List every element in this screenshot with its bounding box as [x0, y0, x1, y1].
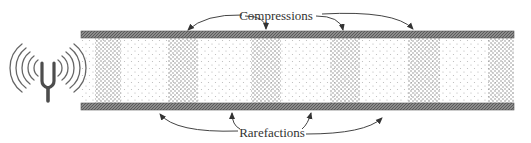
tube-interior	[81, 38, 514, 103]
diagram-canvas: Compressions Rarefactions	[0, 0, 531, 143]
compression-band-6	[488, 38, 514, 103]
compressions-label: Compressions	[239, 8, 313, 23]
rarefactions-label: Rarefactions	[239, 125, 305, 140]
compression-band-4	[330, 38, 360, 103]
rarefactions-annotation: Rarefactions	[160, 113, 382, 140]
tube-bottom-wall	[81, 103, 514, 110]
compression-band-2	[168, 38, 198, 103]
sound-wave-diagram: Compressions Rarefactions	[0, 0, 531, 143]
tuning-fork-icon	[10, 44, 86, 101]
rarefaction-fill	[81, 38, 514, 103]
compression-arrow-1	[188, 15, 242, 30]
compression-arrow-4	[322, 13, 413, 29]
tube-top-wall	[81, 31, 514, 38]
rarefaction-arrow-4	[306, 118, 382, 134]
compression-band-1	[95, 38, 121, 103]
compressions-annotation: Compressions	[188, 8, 413, 30]
compression-band-3	[251, 38, 281, 103]
left-sound-waves-icon	[10, 44, 38, 92]
compression-arrow-3	[316, 16, 343, 30]
compression-band-5	[408, 38, 440, 103]
rarefaction-arrow-1	[160, 114, 238, 131]
